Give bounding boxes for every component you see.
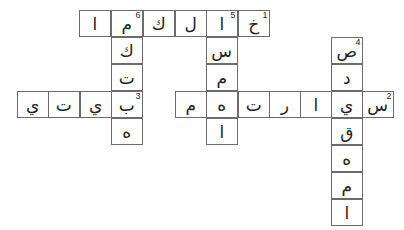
cell-letter: ا — [92, 16, 97, 33]
cell-letter: ه — [217, 97, 226, 114]
crossword-cell[interactable]: م — [331, 172, 363, 199]
clue-number: 3 — [135, 92, 140, 101]
crossword-cell[interactable]: ا — [79, 10, 111, 37]
cell-letter: ي — [340, 97, 353, 114]
cell-letter: ق — [340, 124, 353, 141]
cell-letter: ر — [281, 97, 289, 114]
crossword-cell[interactable]: ا5 — [206, 10, 238, 37]
cell-letter: م — [121, 16, 132, 33]
crossword-cell[interactable]: ت — [111, 64, 143, 91]
crossword-cell[interactable]: ي — [80, 91, 112, 118]
crossword-cell[interactable]: ي — [17, 91, 49, 118]
crossword-cell[interactable]: ك — [143, 10, 175, 37]
crossword-cell[interactable]: ا — [206, 118, 238, 145]
cell-letter: م — [341, 178, 352, 195]
crossword-cell[interactable]: ا — [300, 91, 332, 118]
clue-number: 6 — [135, 11, 140, 20]
crossword-cell[interactable]: ك — [111, 37, 143, 64]
cell-letter: ك — [152, 16, 166, 33]
cell-letter: ت — [119, 70, 135, 87]
cell-letter: ه — [342, 151, 351, 168]
crossword-cell[interactable]: ص4 — [331, 37, 363, 64]
cell-letter: ب — [119, 97, 135, 114]
cell-letter: ا — [344, 205, 349, 222]
cell-letter: ت — [246, 97, 262, 114]
crossword-grid: ام6كلا5خ1كتب3هيتيسمامهترايس2ص4دقهما — [0, 0, 404, 230]
cell-letter: د — [343, 70, 351, 87]
cell-letter: س — [367, 97, 388, 114]
crossword-cell[interactable]: م — [175, 91, 207, 118]
crossword-cell[interactable]: س2 — [362, 91, 394, 118]
clue-number: 1 — [262, 11, 267, 20]
crossword-cell[interactable]: ه — [111, 118, 143, 145]
crossword-cell[interactable]: ل — [175, 10, 207, 37]
crossword-cell[interactable]: ق — [331, 118, 363, 145]
crossword-cell[interactable]: ا — [331, 199, 363, 226]
crossword-cell[interactable]: ب3 — [111, 91, 143, 118]
crossword-cell[interactable]: ي — [331, 91, 363, 118]
cell-letter: م — [185, 97, 196, 114]
cell-letter: س — [211, 43, 232, 60]
cell-letter: ي — [26, 97, 39, 114]
cell-letter: ي — [89, 97, 102, 114]
crossword-cell[interactable]: خ1 — [238, 10, 270, 37]
cell-letter: خ — [248, 16, 259, 33]
cell-letter: ص — [336, 43, 357, 60]
cell-letter: ا — [219, 124, 224, 141]
crossword-cell[interactable]: ر — [269, 91, 301, 118]
crossword-cell[interactable]: ت — [48, 91, 80, 118]
clue-number: 2 — [386, 92, 391, 101]
clue-number: 4 — [355, 38, 360, 47]
crossword-cell[interactable]: ه — [331, 145, 363, 172]
crossword-cell[interactable]: م — [206, 64, 238, 91]
cell-letter: ك — [120, 43, 134, 60]
cell-letter: ا — [313, 97, 318, 114]
cell-letter: ت — [56, 97, 72, 114]
clue-number: 5 — [230, 11, 235, 20]
crossword-cell[interactable]: ت — [238, 91, 270, 118]
crossword-cell[interactable]: س — [206, 37, 238, 64]
cell-letter: ا — [219, 16, 224, 33]
crossword-cell[interactable]: د — [331, 64, 363, 91]
crossword-cell[interactable]: م6 — [111, 10, 143, 37]
cell-letter: م — [216, 70, 227, 87]
cell-letter: ل — [185, 16, 197, 33]
crossword-cell[interactable]: ه — [206, 91, 238, 118]
cell-letter: ه — [122, 124, 131, 141]
